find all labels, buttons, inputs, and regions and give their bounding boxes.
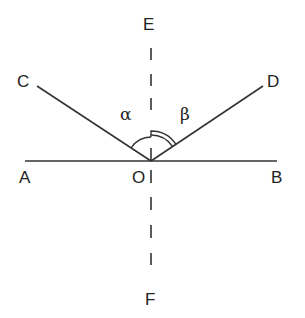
angle-alpha-arc [131,137,151,148]
label-b: B [271,168,282,187]
reflection-diagram: E C D α β A O B F [0,0,305,318]
label-o: O [132,168,145,187]
ray-co [37,86,151,161]
label-e: E [143,15,154,34]
label-a: A [19,168,31,187]
label-alpha: α [120,104,132,124]
label-beta: β [180,104,190,124]
label-c: C [17,72,29,91]
label-f: F [145,290,155,309]
label-d: D [267,72,279,91]
ray-od [151,86,263,161]
